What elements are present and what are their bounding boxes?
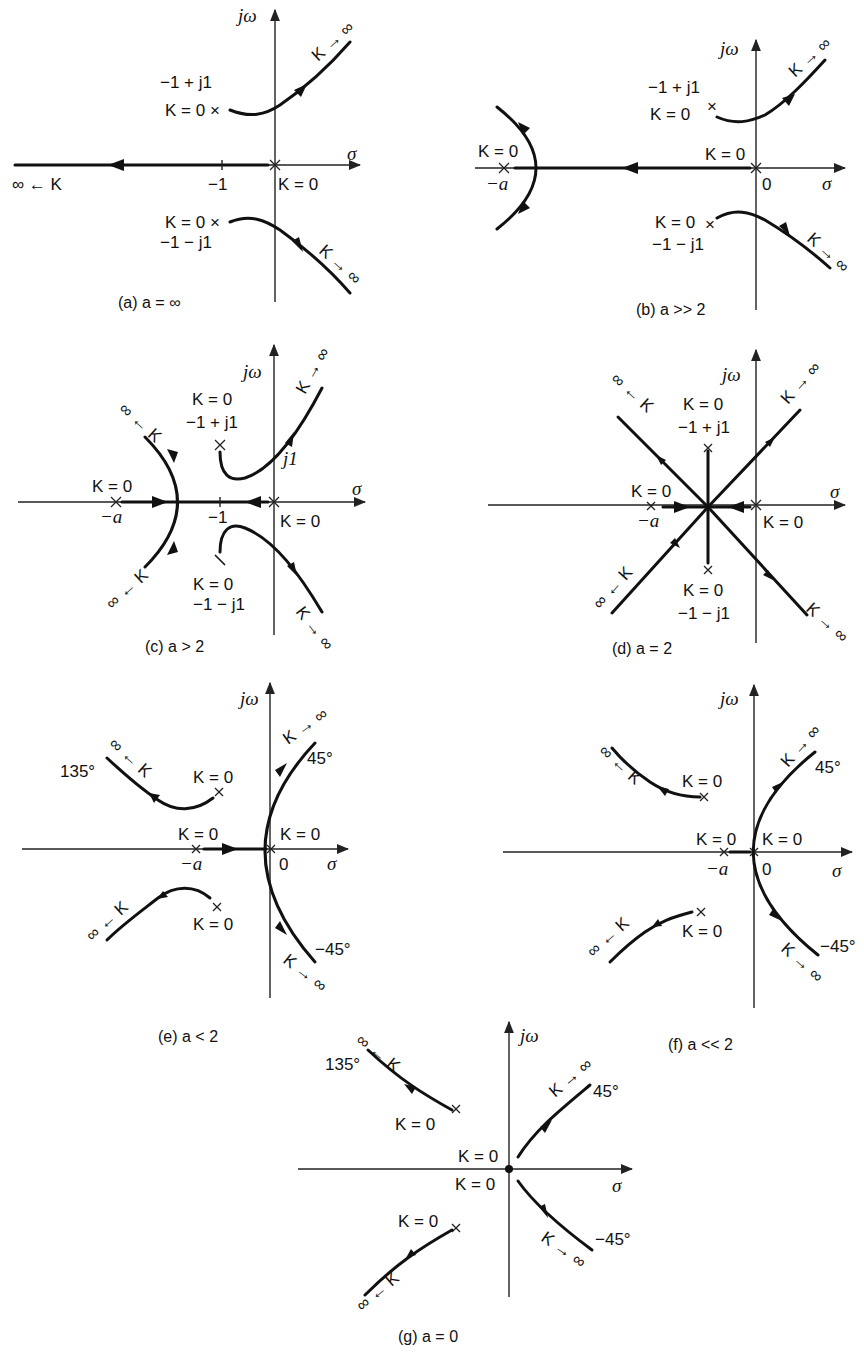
upper-asymptote-label: K → ∞	[545, 1054, 595, 1101]
origin-label: 0	[762, 175, 771, 194]
neg-a-k: K = 0	[178, 825, 218, 844]
lower-pole-k: K = 0	[655, 213, 695, 232]
upper-asymptote-label: K → ∞	[279, 704, 331, 748]
arrow-icon	[152, 496, 168, 508]
double-pole-origin	[505, 1165, 513, 1173]
panel-e: jω σ K = 0 K = 0 K = 0 0 K = 0 −a 135° 4…	[22, 683, 351, 1045]
lower-pole-k: K = 0 ×	[165, 213, 220, 232]
upper-asymptote-label: K → ∞	[785, 33, 835, 81]
pole-marker-lower	[213, 903, 221, 911]
locus-right-arc	[753, 752, 818, 955]
panel-caption: (g) a = 0	[398, 1328, 458, 1345]
lower-left-asymptote-label: ∞ ← K	[352, 1268, 403, 1315]
real-axis-label: σ	[352, 478, 362, 499]
neg-a-k: K = 0	[92, 477, 132, 496]
upper-left-asymptote-label: ∞ ← K	[595, 741, 645, 789]
arrow-icon	[674, 501, 690, 513]
upper-pole-k: K = 0 ×	[165, 101, 220, 120]
angle-neg45-label: −45°	[820, 937, 856, 956]
locus-right-arc	[265, 743, 315, 962]
pole-marker-upper	[452, 1105, 460, 1113]
pole-marker-lower	[697, 908, 705, 916]
arrow-icon	[167, 449, 178, 463]
panel-d: jω σ K = 0 −1 + j1 K = 0 −1 − j1 K = 0 K…	[488, 350, 852, 657]
pole-marker-upper	[215, 440, 225, 450]
lower-left-asymptote-label: ∞ ← K	[589, 562, 637, 612]
arrow-icon	[728, 501, 744, 513]
origin-k: K = 0	[705, 145, 745, 164]
angle-45-label: 45°	[593, 1082, 619, 1101]
neg-a-label: −a	[706, 858, 728, 879]
angle-45-label: 45°	[815, 758, 841, 777]
panel-c: jω σ K = 0 −1 + j1 K = 0 −1 − j1 K = 0 K…	[18, 344, 365, 655]
real-axis-label: σ	[822, 173, 832, 194]
origin-k-top: K = 0	[458, 1147, 498, 1166]
lower-pole-k: K = 0	[683, 581, 723, 600]
lower-asymptote-label: K → ∞	[538, 1228, 590, 1272]
real-axis-label: σ	[832, 860, 842, 881]
panel-caption: (b) a >> 2	[636, 301, 705, 318]
pole-marker-upper: ×	[707, 97, 717, 116]
arrow-icon	[108, 159, 124, 171]
upper-pole-coord: −1 + j1	[160, 73, 212, 92]
real-axis-label: σ	[830, 481, 840, 502]
arrow-icon	[622, 162, 638, 174]
locus-upper	[220, 388, 322, 479]
pole-marker-upper	[215, 788, 223, 796]
pole-marker-neg-a	[647, 502, 655, 510]
origin-k: K = 0	[762, 830, 802, 849]
imag-axis-label: jω	[517, 1025, 539, 1046]
lower-pole-k: K = 0	[398, 1212, 438, 1231]
neg-a-label: −a	[180, 853, 202, 874]
upper-pole-k: K = 0	[395, 1115, 435, 1134]
lower-left-asymptote-label: ∞ ← K	[102, 565, 152, 613]
upper-left-asymptote-label: ∞ ← K	[115, 399, 165, 447]
angle-neg45-label: −45°	[595, 1230, 631, 1249]
lower-pole-coord: −1 − j1	[193, 595, 245, 614]
upper-asymptote-label: K → ∞	[777, 358, 825, 408]
neg-a-label: −a	[100, 506, 122, 527]
pole-marker-lower: ×	[705, 215, 715, 234]
origin-label: 0	[762, 860, 771, 879]
arrow-icon	[275, 763, 287, 777]
panel-caption: (c) a > 2	[145, 638, 204, 655]
imag-axis-label: jω	[719, 364, 741, 385]
origin-k: K = 0	[763, 513, 803, 532]
imag-axis-label: jω	[240, 361, 262, 382]
angle-135-label: 135°	[60, 762, 95, 781]
neg-a-k: K = 0	[631, 482, 671, 501]
pole-marker-lower	[704, 566, 712, 574]
real-axis-label: σ	[347, 143, 357, 164]
panel-caption: (a) a = ∞	[118, 294, 181, 311]
lower-asymptote-label: K → ∞	[802, 599, 852, 647]
neg-a-label: −a	[486, 173, 508, 194]
arrow-icon	[245, 496, 261, 508]
imag-axis-label: jω	[235, 5, 257, 26]
upper-pole-k: K = 0	[682, 772, 722, 791]
imag-axis-label: jω	[717, 688, 739, 709]
tick-label: −1	[208, 175, 227, 194]
upper-pole-coord: −1 + j1	[648, 78, 700, 97]
origin-k-bottom: K = 0	[455, 1175, 495, 1194]
panel-a: jω σ −1 + j1 K = 0 × K = 0 × −1 − j1 K =…	[12, 5, 365, 311]
arrow-icon	[657, 786, 669, 796]
neg-a-label: −a	[637, 510, 659, 531]
upper-left-asymptote-label: ∞ ← K	[607, 369, 657, 417]
panel-b: jω σ −1 + j1 K = 0 × K = 0 × −1 − j1 K =…	[475, 33, 853, 318]
arrow-icon	[167, 541, 178, 555]
origin-k: K = 0	[280, 512, 320, 531]
tick-label: −1	[208, 508, 227, 527]
origin-k: K = 0	[278, 175, 318, 194]
imag-axis-label: jω	[237, 688, 259, 709]
panel-caption: (f) a << 2	[668, 1036, 733, 1053]
lower-asymptote-label: K → ∞	[292, 603, 338, 654]
j1-label: j1	[280, 448, 298, 469]
lower-left-asymptote-label: ∞ ← K	[82, 897, 132, 945]
lower-pole-coord: −1 − j1	[652, 235, 704, 254]
lower-pole-coord: −1 − j1	[160, 233, 212, 252]
panel-caption: (d) a = 2	[612, 640, 672, 657]
origin-label: 0	[279, 855, 288, 874]
upper-pole-k: K = 0	[192, 390, 232, 409]
upper-left-asymptote-label: ∞ ← K	[105, 734, 155, 782]
real-axis-label: σ	[612, 1175, 622, 1196]
